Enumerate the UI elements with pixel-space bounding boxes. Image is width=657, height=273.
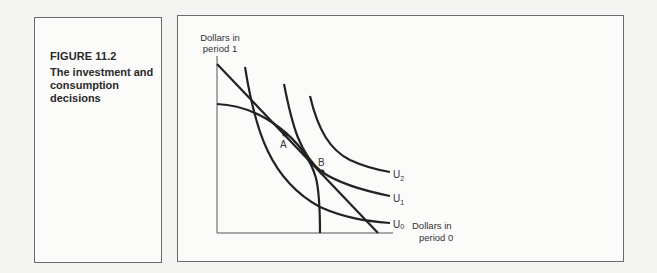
indifference-curve-u0 xyxy=(245,67,390,223)
chart: Dollars in period 1 A B U2 U1 U0 Dollars… xyxy=(0,0,657,273)
u0-label: U0 xyxy=(393,219,404,230)
indifference-curve-u1 xyxy=(284,84,390,196)
y-axis-label-line1: Dollars in xyxy=(200,32,240,43)
point-b-label: B xyxy=(318,157,325,168)
y-axis-label-line2: period 1 xyxy=(203,43,237,54)
point-b xyxy=(319,169,324,174)
u1-label: U1 xyxy=(393,193,404,206)
market-line xyxy=(217,64,378,233)
point-a xyxy=(282,131,287,136)
x-axis-label-line2: period 0 xyxy=(419,232,453,243)
production-frontier-curve xyxy=(217,104,320,233)
point-a-label: A xyxy=(280,139,287,150)
x-axis-label-line1: Dollars in xyxy=(412,220,452,231)
u2-label: U2 xyxy=(393,169,404,182)
